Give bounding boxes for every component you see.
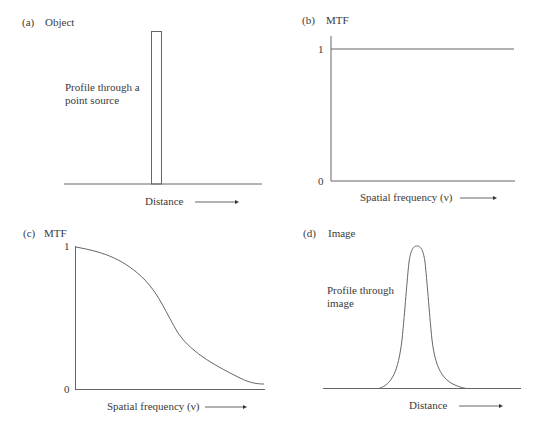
panel-d-label: (d) <box>303 227 316 240</box>
panel-d-image-profile-curve <box>379 246 466 389</box>
panel-a-x-axis-label: Distance <box>145 195 183 208</box>
panel-d-annotation-line1: Profile through <box>327 284 394 297</box>
panel-d-annotation-line2: image <box>327 297 354 310</box>
panel-b-label: (b) <box>302 14 315 27</box>
panel-c-y-tick-0: 0 <box>64 383 70 396</box>
panel-a-annotation-line2: point source <box>65 94 119 107</box>
panel-a-label: (a) <box>22 16 34 29</box>
panel-c-title: MTF <box>44 227 67 240</box>
panel-d-plot <box>323 246 521 408</box>
panel-b-y-tick-1: 1 <box>318 43 324 56</box>
panel-c-mtf-curve <box>76 247 265 384</box>
panel-b-y-tick-0: 0 <box>318 175 324 188</box>
panel-c-arrowhead-icon <box>243 405 247 409</box>
panel-b-title: MTF <box>326 14 349 27</box>
panel-d-x-axis-label: Distance <box>409 399 447 412</box>
panel-c-y-tick-1: 1 <box>64 240 70 253</box>
panel-b-plot <box>331 36 515 200</box>
panel-a-arrowhead-icon <box>235 200 239 204</box>
panel-d-title: Image <box>328 227 355 240</box>
panel-d-arrowhead-icon <box>499 404 503 408</box>
panel-a-title: Object <box>45 16 74 29</box>
figure-canvas <box>0 0 538 432</box>
panel-a-plot <box>64 32 262 205</box>
panel-c-label: (c) <box>23 227 35 240</box>
panel-b-arrowhead-icon <box>493 196 497 200</box>
panel-b-x-axis-label: Spatial frequency (ν) <box>360 191 452 204</box>
panel-a-annotation-line1: Profile through a <box>65 81 140 94</box>
panel-c-plot <box>76 246 266 409</box>
panel-c-x-axis-label: Spatial frequency (ν) <box>107 400 199 413</box>
panel-a-point-source-bar <box>152 32 162 185</box>
